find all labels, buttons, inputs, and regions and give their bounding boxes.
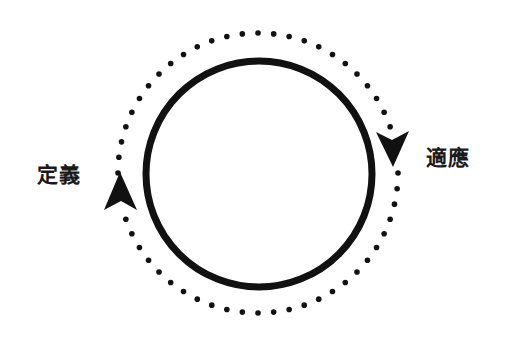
dot <box>387 216 393 222</box>
dot <box>342 280 348 286</box>
dot <box>129 231 135 237</box>
dot <box>137 96 143 102</box>
dot <box>224 34 230 40</box>
label-definition: 定義 <box>37 165 81 186</box>
arrow-up-icon <box>104 172 137 210</box>
dot <box>129 109 135 115</box>
dot <box>286 34 292 40</box>
dot <box>330 289 336 295</box>
dot <box>255 310 261 316</box>
label-adaptation: 適應 <box>426 148 470 169</box>
dot <box>316 44 322 50</box>
dot <box>168 280 174 286</box>
dot <box>374 96 380 102</box>
dot <box>181 52 187 58</box>
dot <box>381 109 387 115</box>
dot <box>342 61 348 67</box>
dot <box>146 83 152 89</box>
dot <box>168 61 174 67</box>
dot <box>365 257 371 263</box>
dot <box>146 257 152 263</box>
dot <box>330 52 336 58</box>
dot <box>387 124 393 130</box>
dot <box>365 83 371 89</box>
dot <box>316 296 322 302</box>
dot <box>394 186 400 192</box>
outer-dotted-circle <box>115 30 401 316</box>
dot <box>123 124 129 130</box>
dot <box>392 201 398 207</box>
dot <box>194 296 200 302</box>
inner-solid-circle <box>146 61 372 287</box>
dot <box>301 38 307 44</box>
dot <box>286 307 292 313</box>
dot <box>116 155 122 161</box>
dot <box>156 71 162 77</box>
dot <box>240 309 246 315</box>
dot <box>354 269 360 275</box>
dot <box>194 44 200 50</box>
dot <box>271 31 277 37</box>
dot <box>209 302 215 308</box>
dot <box>123 216 129 222</box>
dot <box>354 71 360 77</box>
dot <box>381 231 387 237</box>
dot <box>301 302 307 308</box>
dot <box>271 309 277 315</box>
dot <box>156 269 162 275</box>
dot <box>240 31 246 37</box>
dot <box>137 245 143 251</box>
dot <box>119 139 125 145</box>
dot <box>255 30 261 36</box>
dot <box>181 289 187 295</box>
dot <box>395 170 401 176</box>
dot <box>224 307 230 313</box>
dot <box>374 245 380 251</box>
dot <box>209 38 215 44</box>
arrow-down-icon <box>376 131 409 167</box>
